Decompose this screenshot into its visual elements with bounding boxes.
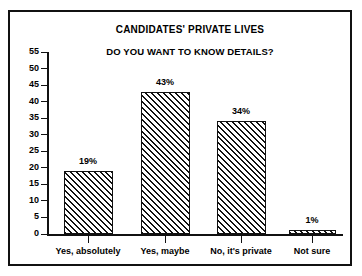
y-axis-tick [41,217,48,218]
chart-subtitle: DO YOU WANT TO KNOW DETAILS? [40,46,340,57]
y-axis-tick [41,184,48,185]
y-axis-tick [41,200,48,201]
plot-area: CANDIDATES' PRIVATE LIVES DO YOU WANT TO… [10,12,350,264]
chart-frame: CANDIDATES' PRIVATE LIVES DO YOU WANT TO… [8,10,352,266]
y-axis-tick-label: 0 [13,229,39,238]
y-axis-tick [41,151,48,152]
chart-title: CANDIDATES' PRIVATE LIVES [40,24,340,35]
y-axis-tick [41,52,48,53]
bar-value-label: 1% [305,215,318,225]
x-axis-tick [312,236,313,243]
bar-value-label: 34% [232,106,250,116]
y-axis-tick-label-text: 5 [17,212,39,221]
y-axis-tick [41,85,48,86]
y-axis-tick-label-text: 25 [17,146,39,155]
y-axis-tick-label-text: 45 [17,80,39,89]
y-axis-tick-label-text: 50 [17,64,39,73]
y-axis-tick-label-text: 30 [17,130,39,139]
y-axis-tick-label: 15 [13,179,39,188]
x-axis-category-label: No, it's private [210,246,272,256]
x-axis-line [47,234,343,236]
y-axis-tick [41,101,48,102]
y-axis-tick-label: 25 [13,146,39,155]
y-axis-tick-label-text: 20 [17,163,39,172]
y-axis-tick-label: 50 [13,64,39,73]
x-axis-category-label: Not sure [294,246,331,256]
y-axis-tick-label: 10 [13,196,39,205]
y-axis-tick-label: 20 [13,163,39,172]
x-axis-tick [88,236,89,243]
bar [289,230,336,234]
y-axis-tick [41,68,48,69]
y-axis-tick-label: 5 [13,212,39,221]
bar-value-label: 19% [79,156,97,166]
bar [64,171,113,234]
y-axis-tick [41,167,48,168]
y-axis-tick-label-text: 55 [17,47,39,56]
bar-value-label: 43% [156,77,174,87]
bar [141,92,190,234]
y-axis-tick-label: 45 [13,80,39,89]
y-axis-tick-label-text: 0 [17,229,39,238]
y-axis-line [47,52,49,236]
x-axis-category-label: Yes, absolutely [55,246,120,256]
y-axis-tick-label: 30 [13,130,39,139]
y-axis-tick-label-text: 10 [17,196,39,205]
y-axis-tick-label-text: 40 [17,97,39,106]
x-axis-tick [241,236,242,243]
bar [217,121,266,234]
y-axis-tick-label: 40 [13,97,39,106]
y-axis-tick [41,118,48,119]
y-axis-tick-label-text: 35 [17,113,39,122]
x-axis-tick [165,236,166,243]
y-axis-tick [41,234,48,235]
y-axis-tick [41,134,48,135]
y-axis-tick-label: 35 [13,113,39,122]
y-axis-tick-label: 55 [13,47,39,56]
x-axis-category-label: Yes, maybe [140,246,189,256]
y-axis-tick-label-text: 15 [17,179,39,188]
